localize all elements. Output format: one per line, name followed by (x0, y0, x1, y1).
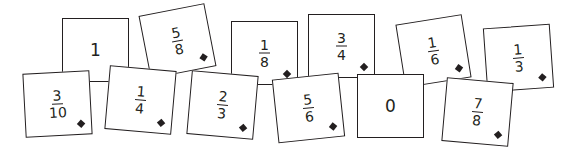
diamond-icon (360, 63, 368, 71)
diamond-icon (157, 119, 165, 127)
card-2-3[interactable]: 23 (186, 70, 258, 140)
denominator: 8 (173, 41, 185, 57)
numerator: 1 (426, 35, 439, 53)
fraction: 56 (301, 92, 315, 124)
denominator: 8 (472, 112, 482, 128)
denominator: 8 (260, 54, 269, 69)
fraction: 13 (512, 42, 525, 74)
whole-number: 1 (90, 42, 101, 59)
card-5-6[interactable]: 56 (272, 73, 345, 144)
fraction: 310 (48, 88, 67, 120)
numerator: 3 (336, 31, 347, 47)
fraction: 78 (471, 96, 485, 128)
diamond-icon (77, 120, 85, 128)
numerator: 2 (217, 89, 229, 106)
card-0[interactable]: 0 (357, 74, 424, 138)
card-3-4[interactable]: 34 (308, 14, 375, 78)
card-value: 34 (309, 31, 374, 62)
fraction: 34 (336, 31, 347, 62)
fraction: 58 (169, 25, 186, 58)
fraction: 16 (426, 35, 442, 67)
diamond-icon (199, 53, 207, 61)
card-value: 310 (24, 87, 91, 121)
denominator: 4 (337, 47, 346, 62)
diamond-icon (494, 131, 502, 139)
denominator: 4 (135, 100, 145, 116)
denominator: 10 (49, 104, 68, 120)
denominator: 3 (514, 58, 524, 74)
denominator: 6 (429, 51, 440, 67)
numerator: 3 (51, 88, 63, 105)
numerator: 5 (301, 92, 314, 109)
fraction: 14 (134, 84, 148, 116)
diamond-icon (329, 122, 337, 130)
fraction: 18 (259, 38, 270, 69)
card-value: 14 (107, 82, 174, 119)
numerator: 7 (472, 96, 484, 113)
numerator: 1 (135, 84, 147, 101)
card-7-8[interactable]: 78 (441, 77, 513, 147)
diamond-icon (455, 64, 463, 72)
card-value: 18 (232, 38, 297, 69)
numerator: 1 (259, 38, 270, 54)
denominator: 3 (217, 105, 227, 121)
diamond-icon (538, 73, 546, 81)
card-value: 13 (485, 40, 552, 75)
card-value: 0 (358, 98, 423, 115)
diamond-icon (239, 124, 247, 132)
card-3-10[interactable]: 310 (22, 70, 92, 137)
numerator: 1 (512, 42, 524, 59)
card-value: 23 (189, 87, 256, 124)
fraction: 23 (216, 89, 230, 121)
card-5-8[interactable]: 58 (139, 3, 217, 79)
card-value: 78 (444, 94, 511, 131)
card-1-4[interactable]: 14 (104, 65, 176, 135)
whole-number: 0 (385, 98, 396, 115)
card-value: 1 (63, 42, 128, 59)
denominator: 6 (304, 108, 314, 124)
